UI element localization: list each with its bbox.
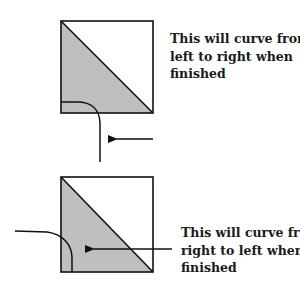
bottom-block	[15, 177, 172, 272]
bottom-caption: This will curve from right to left when …	[181, 224, 300, 277]
top-caption: This will curve from left to right when …	[170, 30, 300, 83]
bottom-caption-line-2: right to left when	[181, 242, 300, 260]
top-caption-line-1: This will curve from	[170, 30, 300, 48]
top-caption-line-2: left to right when	[170, 48, 300, 66]
top-block	[61, 21, 153, 162]
bottom-caption-line-1: This will curve from	[181, 224, 300, 242]
bottom-caption-line-3: finished	[181, 259, 300, 277]
top-caption-line-3: finished	[170, 65, 300, 83]
